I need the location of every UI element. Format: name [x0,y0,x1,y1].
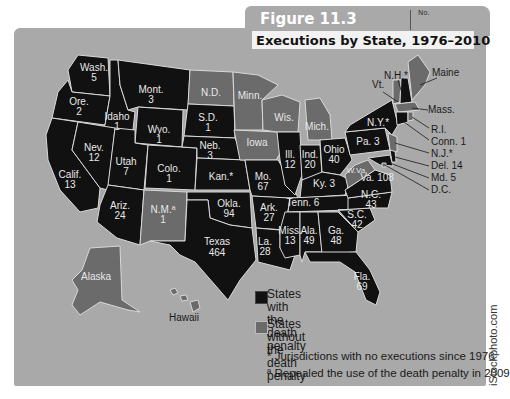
label-kan: Kan.* [209,171,234,182]
label-pa: Pa. 3 [356,136,380,147]
label-nh: N.H.* [384,70,408,81]
label-ri: R.I. [431,124,447,135]
value-ariz: 24 [114,210,126,221]
label-alaska: Alaska [81,271,111,282]
state-rhode-island [408,112,413,121]
label-del: Del. 14 [431,160,463,171]
label-md: Md. 5 [431,172,456,183]
state-massachusetts [395,102,420,112]
value-ala: 49 [303,235,315,246]
value-mont: 3 [148,94,154,105]
value-wash: 5 [91,72,97,83]
value-ark: 27 [263,212,275,223]
value-okla: 94 [223,208,235,219]
label-iowa: Iowa [246,137,268,148]
value-texas: 464 [209,247,226,258]
value-nev: 12 [88,152,100,163]
footnote-asterisk: * Jurisdictions with no executions since… [267,350,495,362]
value-ga: 48 [330,235,342,246]
value-idaho: 1 [114,121,120,132]
state-connecticut [396,112,408,125]
label-ky: Ky. 3 [313,178,335,189]
value-colo: 1 [166,173,172,184]
value-ind: 20 [304,159,316,170]
state-hawaii [170,288,200,312]
state-michigan [305,98,332,140]
value-la: 28 [259,246,271,257]
value-neb: 3 [207,150,213,161]
value-ill: 12 [284,159,296,170]
value-ohio: 40 [328,154,340,165]
state-maine [408,55,430,100]
value-calif: 13 [64,179,76,190]
value-mo: 67 [257,181,269,192]
label-dc: D.C. [431,184,451,195]
label-minn: Minn. [238,90,262,101]
value-nc: 43 [365,199,377,210]
label-maine: Maine [432,67,460,78]
value-miss: 13 [284,235,296,246]
value-ore: 2 [76,106,82,117]
footnote-a: ª Repealed the use of the death penalty … [267,367,510,379]
value-fla: 69 [356,281,368,292]
label-tenn: Tenn. 6 [287,197,320,208]
label-conn: Conn. 1 [431,136,466,147]
label-mich: Mich. [305,121,329,132]
photo-credit: iStockphoto.com [487,368,499,386]
label-ny: N.Y.* [367,117,389,128]
value-utah: 7 [123,166,129,177]
state-maryland [368,155,393,166]
label-wis: Wis. [274,112,293,123]
value-nm: 1 [160,214,166,225]
value-sd: 1 [205,122,211,133]
label-wva: W.Va. [347,166,368,175]
value-sc: 42 [351,219,363,230]
label-hawaii: Hawaii [169,312,199,323]
value-wyo: 1 [156,134,162,145]
label-nj: N.J.* [431,148,453,159]
label-mass: Mass. [428,104,455,115]
legend-without-line1: States without [267,318,306,344]
label-nd: N.D. [201,87,221,98]
label-vt: Vt. [372,79,384,90]
label-texas: Texas [204,236,230,247]
